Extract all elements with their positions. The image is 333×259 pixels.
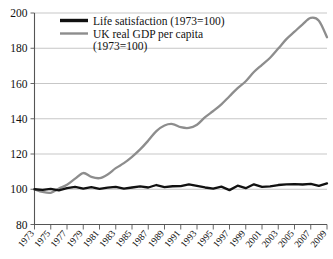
x-tick-label: 1987 (130, 228, 150, 249)
x-tick-label: 1983 (97, 228, 117, 249)
y-tick-label: 180 (10, 42, 28, 54)
x-tick-label: 1977 (49, 228, 69, 249)
x-tick-label: 1997 (211, 228, 231, 249)
x-tick-label: 1991 (162, 228, 182, 249)
y-tick-label: 140 (10, 113, 28, 125)
x-tick-label: 1989 (146, 228, 166, 249)
x-axis-tick-labels: 1973197519771979198119831985198719891991… (16, 228, 329, 249)
x-tick-label: 2003 (260, 228, 280, 249)
x-tick-label: 2005 (276, 228, 296, 249)
line-chart: 20018016014012010080 1973197519771979198… (0, 0, 333, 259)
x-tick-label: 2009 (309, 228, 329, 249)
x-tick-label: 1999 (227, 228, 247, 249)
x-tick-label: 1979 (65, 228, 85, 249)
y-tick-label: 200 (10, 7, 28, 19)
y-tick-label: 160 (10, 78, 28, 90)
series-line-uk-real-gdp-per-capita (35, 18, 328, 193)
chart-container: 20018016014012010080 1973197519771979198… (0, 0, 333, 259)
x-tick-label: 1995 (195, 228, 215, 249)
x-axis-tickmarks (35, 225, 328, 230)
x-tick-label: 2001 (244, 228, 264, 249)
legend-label-uk-real-gdp-line1: UK real GDP per capita (93, 28, 203, 41)
y-axis-tick-labels: 20018016014012010080 (10, 7, 28, 231)
x-tick-label: 1973 (16, 228, 36, 249)
x-tick-label: 1981 (81, 228, 101, 249)
y-axis-tickmarks (31, 13, 35, 225)
chart-legend: Life satisfaction (1973=100) UK real GDP… (60, 15, 225, 54)
x-tick-label: 1975 (32, 228, 52, 249)
y-tick-label: 100 (10, 183, 28, 195)
legend-label-uk-real-gdp-line2: (1973=100) (93, 40, 148, 53)
x-tick-label: 1985 (114, 228, 134, 249)
x-tick-label: 2007 (292, 228, 312, 249)
x-tick-label: 1993 (179, 228, 199, 249)
y-tick-label: 120 (10, 148, 28, 160)
y-tick-label: 80 (16, 219, 28, 231)
legend-label-life-satisfaction: Life satisfaction (1973=100) (93, 15, 225, 28)
